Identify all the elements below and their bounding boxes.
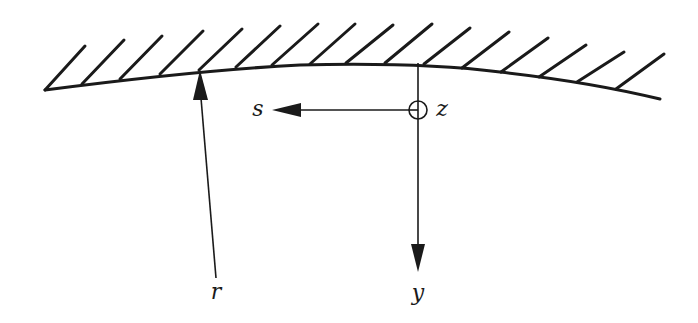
label-z: z	[436, 98, 448, 120]
r-arrow-shaft	[201, 98, 216, 278]
label-y: y	[412, 282, 424, 304]
y-arrowhead-icon	[411, 244, 425, 272]
label-r: r	[211, 281, 222, 303]
wall	[45, 24, 664, 99]
r-arrowhead-icon	[193, 70, 208, 100]
label-s: s	[252, 98, 263, 120]
r-axis	[193, 70, 216, 278]
s-arrowhead-icon	[272, 103, 301, 117]
y-axis	[411, 63, 425, 272]
wall-surface-curve	[45, 64, 660, 99]
wall-coordinate-diagram	[0, 0, 698, 323]
z-axis-marker	[409, 101, 427, 119]
s-axis	[272, 103, 410, 117]
